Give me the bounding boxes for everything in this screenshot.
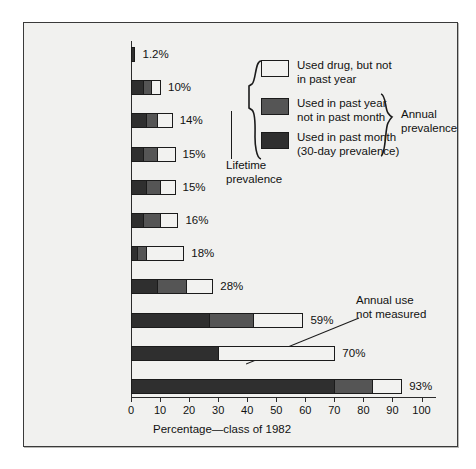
x-tick bbox=[131, 397, 132, 402]
bar-segment-year bbox=[143, 147, 159, 162]
bar-segment-month bbox=[131, 379, 335, 394]
chart-legend: Used drug, but not in past year Used in … bbox=[229, 59, 454, 169]
legend-lifetime-prevalence-label: Lifetime prevalence bbox=[226, 159, 282, 186]
annotation-line2: not measured bbox=[356, 308, 426, 322]
x-tick-label: 40 bbox=[241, 404, 253, 416]
legend-label-line1: Used in past year bbox=[297, 97, 387, 111]
x-tick bbox=[160, 397, 161, 402]
plot-area: Used drug, but not in past year Used in … bbox=[24, 23, 457, 446]
legend-annual-line2: prevalence bbox=[401, 122, 457, 136]
x-tick bbox=[189, 397, 190, 402]
x-tick bbox=[392, 397, 393, 402]
legend-lifetime-line1: Lifetime bbox=[226, 159, 282, 173]
bar-segment-year bbox=[143, 213, 161, 228]
bar-segment-month bbox=[131, 346, 219, 361]
bar-value-label: 16% bbox=[185, 213, 208, 228]
bar-segment-lifetime bbox=[218, 346, 335, 361]
x-tick bbox=[218, 397, 219, 402]
legend-label-line2: not in past month bbox=[297, 111, 387, 125]
bar-segment-month bbox=[131, 113, 147, 128]
legend-annual-prevalence-label: Annual prevalence bbox=[401, 108, 457, 135]
stacked-bar bbox=[131, 213, 178, 228]
x-tick bbox=[422, 397, 423, 402]
stacked-bar bbox=[131, 313, 303, 328]
x-axis-line bbox=[131, 397, 436, 398]
bar-segment-year bbox=[157, 279, 187, 294]
legend-right-brace-icon bbox=[379, 92, 395, 158]
legend-swatch-dark bbox=[261, 132, 289, 149]
x-tick-label: 100 bbox=[412, 404, 430, 416]
bar-segment-lifetime bbox=[160, 213, 178, 228]
legend-item-past-year: Used in past year not in past month bbox=[261, 97, 387, 124]
x-tick-label: 0 bbox=[128, 404, 134, 416]
bar-segment-year bbox=[146, 180, 162, 195]
bar-segment-lifetime bbox=[157, 147, 175, 162]
legend-label-line2: in past year bbox=[297, 73, 392, 87]
bar-value-label: 15% bbox=[183, 180, 206, 195]
bar-segment-year bbox=[209, 313, 254, 328]
x-tick-label: 70 bbox=[328, 404, 340, 416]
bar-value-label: 14% bbox=[180, 113, 203, 128]
bar-value-label: 18% bbox=[191, 246, 214, 261]
chart-panel: Used drug, but not in past year Used in … bbox=[23, 22, 458, 447]
bar-segment-month bbox=[131, 313, 210, 328]
x-tick bbox=[363, 397, 364, 402]
bar-segment-month bbox=[131, 279, 158, 294]
stacked-bar bbox=[131, 379, 402, 394]
bar-value-label: 10% bbox=[168, 80, 191, 95]
stacked-bar bbox=[131, 147, 176, 162]
bar-value-label: 1.2% bbox=[142, 47, 168, 62]
stacked-bar bbox=[131, 346, 335, 361]
x-tick-label: 30 bbox=[212, 404, 224, 416]
stacked-bar bbox=[131, 279, 213, 294]
stacked-bar bbox=[131, 180, 176, 195]
bar-segment-month bbox=[131, 47, 135, 62]
legend-label-lifetime-only: Used drug, but not in past year bbox=[297, 59, 392, 86]
bar-value-label: 70% bbox=[342, 346, 365, 361]
bar-segment-month bbox=[131, 180, 147, 195]
legend-label-line1: Used drug, but not bbox=[297, 59, 392, 73]
x-tick bbox=[305, 397, 306, 402]
x-tick-label: 60 bbox=[299, 404, 311, 416]
legend-lifetime-line2: prevalence bbox=[226, 173, 282, 187]
legend-swatch-medium bbox=[261, 98, 289, 115]
lifetime-leader-line bbox=[231, 111, 232, 159]
legend-label-past-year: Used in past year not in past month bbox=[297, 97, 387, 124]
bar-value-label: 59% bbox=[310, 313, 333, 328]
x-tick bbox=[276, 397, 277, 402]
stacked-bar bbox=[131, 47, 135, 62]
chart-page: Used drug, but not in past year Used in … bbox=[0, 0, 476, 469]
bar-segment-lifetime bbox=[151, 80, 161, 95]
stacked-bar bbox=[131, 80, 161, 95]
bar-segment-lifetime bbox=[186, 279, 213, 294]
x-tick-label: 50 bbox=[270, 404, 282, 416]
annotation-line1: Annual use bbox=[356, 294, 426, 308]
stacked-bar bbox=[131, 246, 184, 261]
x-axis-title: Percentage—class of 1982 bbox=[153, 423, 291, 435]
x-tick-label: 20 bbox=[183, 404, 195, 416]
bar-segment-year bbox=[334, 379, 373, 394]
x-tick-label: 80 bbox=[357, 404, 369, 416]
bar-segment-lifetime bbox=[160, 180, 176, 195]
legend-annual-line1: Annual bbox=[401, 108, 457, 122]
annotation-annual-use-not-measured: Annual use not measured bbox=[356, 294, 426, 321]
x-tick bbox=[247, 397, 248, 402]
bar-segment-lifetime bbox=[157, 113, 173, 128]
bar-value-label: 93% bbox=[409, 379, 432, 394]
bar-segment-lifetime bbox=[253, 313, 303, 328]
legend-item-lifetime-only: Used drug, but not in past year bbox=[261, 59, 392, 86]
bar-value-label: 15% bbox=[183, 147, 206, 162]
bar-value-label: 28% bbox=[220, 279, 243, 294]
bar-segment-lifetime bbox=[372, 379, 402, 394]
x-tick-label: 10 bbox=[154, 404, 166, 416]
x-tick bbox=[334, 397, 335, 402]
bar-segment-lifetime bbox=[146, 246, 185, 261]
legend-swatch-white bbox=[261, 60, 289, 77]
stacked-bar bbox=[131, 113, 173, 128]
x-tick-label: 90 bbox=[386, 404, 398, 416]
